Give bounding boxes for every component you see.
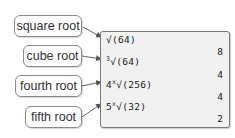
expression-cube-root: 3√(64) [106, 56, 140, 67]
result-square-root: 8 [217, 46, 223, 57]
arrow-cube-root [82, 56, 101, 59]
label-fifth-root: fifth root [25, 106, 82, 128]
result-cube-root: 4 [217, 69, 223, 80]
label-cube-root: cube root [23, 45, 82, 67]
arrow-fifth-root [82, 104, 101, 117]
label-square-root: square root [14, 15, 82, 37]
expression-fourth-root: 4x√(256) [106, 79, 152, 90]
label-fourth-root: fourth root [15, 75, 82, 97]
result-fifth-root: 2 [217, 113, 223, 124]
calculator-screen: √(64) 8 3√(64) 4 4x√(256) 4 5x√(32) 2 [100, 31, 230, 128]
arrow-square-root [83, 27, 101, 37]
arrow-fourth-root [82, 82, 101, 86]
expression-fifth-root: 5x√(32) [106, 101, 146, 112]
result-fourth-root: 4 [217, 91, 223, 102]
expression-square-root: √(64) [106, 34, 136, 45]
